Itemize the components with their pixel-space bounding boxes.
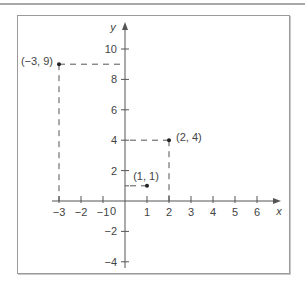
- y-tick-label: −2: [104, 225, 117, 237]
- x-axis-label: x: [275, 205, 282, 217]
- data-point: [167, 138, 171, 142]
- x-tick-label: 1: [144, 206, 150, 218]
- x-axis-arrow-icon: [273, 198, 281, 204]
- point-label: (2, 4): [176, 131, 202, 143]
- x-tick-label: 3: [188, 206, 194, 218]
- origin-label: 0: [110, 205, 116, 217]
- y-axis-label: y: [109, 21, 117, 33]
- x-tick-label: 4: [210, 206, 216, 218]
- x-tick-label: −2: [75, 206, 88, 218]
- axes: [52, 27, 276, 268]
- point-label: (−3, 9): [21, 55, 53, 67]
- x-tick-label: −3: [53, 206, 66, 218]
- x-ticks: [59, 196, 257, 203]
- point-label: (1, 1): [133, 170, 159, 182]
- y-tick-label: 4: [111, 134, 117, 146]
- y-tick-label: 6: [111, 104, 117, 116]
- y-tick-label: 2: [111, 165, 117, 177]
- x-tick-labels: −3−2−1123456: [53, 206, 260, 218]
- x-tick-label: 5: [232, 206, 238, 218]
- y-tick-label: −4: [104, 256, 117, 268]
- x-tick-label: −1: [97, 206, 110, 218]
- y-tick-label: 8: [111, 73, 117, 85]
- data-point: [145, 184, 149, 188]
- x-tick-label: 6: [254, 206, 260, 218]
- data-point: [57, 62, 61, 66]
- x-tick-label: 2: [166, 206, 172, 218]
- coordinate-plane: −3−2−1123456 −4−2246810 0 x y (−3, 9)(2,…: [0, 0, 305, 282]
- y-tick-label: 10: [105, 43, 117, 55]
- y-axis-arrow-icon: [122, 22, 128, 30]
- y-tick-labels: −4−2246810: [104, 43, 117, 268]
